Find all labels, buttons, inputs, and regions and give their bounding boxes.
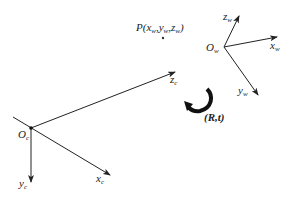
world-frame	[224, 16, 277, 95]
camera-x-label: xc	[96, 173, 104, 186]
camera-origin-label: Oc	[18, 129, 29, 142]
transform-arrow-icon	[184, 89, 211, 111]
world-x-label: xw	[270, 40, 280, 53]
camera-frame	[13, 72, 175, 182]
world-origin-label: Ow	[206, 42, 219, 55]
world-z-label: zw	[223, 11, 232, 24]
point-p-label: P(xw,yw,zw)	[136, 22, 184, 35]
transform-label: (R,t)	[204, 112, 225, 123]
point-p-dot	[162, 37, 164, 39]
world-y-label: yw	[238, 85, 248, 98]
camera-y-label: yc	[19, 178, 27, 191]
camera-z-axis	[31, 72, 175, 128]
diagram-canvas: P(xw,yw,zw) zw Ow xw yw zc Oc xc yc (R,t…	[0, 0, 291, 199]
camera-origin-dot	[29, 126, 33, 130]
camera-x-axis	[13, 117, 110, 175]
camera-z-label: zc	[170, 74, 177, 87]
